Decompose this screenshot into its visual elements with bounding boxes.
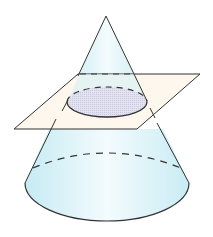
diagram-svg bbox=[0, 0, 213, 237]
cone-section-diagram bbox=[0, 0, 213, 237]
cone-body-lower bbox=[25, 129, 189, 221]
